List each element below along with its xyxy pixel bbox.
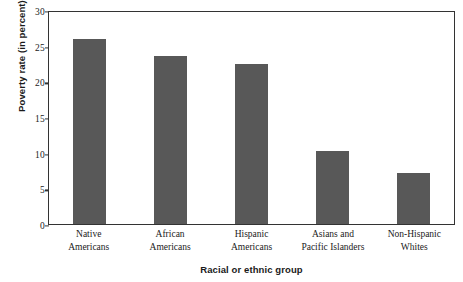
bar-series bbox=[49, 12, 454, 224]
bar-slot bbox=[211, 12, 292, 224]
x-axis-tick-label: AfricanAmericans bbox=[129, 228, 210, 253]
poverty-rate-bar-chart: Poverty rate (in percent) 051015202530 N… bbox=[0, 0, 463, 282]
x-axis-title: Racial or ethnic group bbox=[48, 264, 455, 275]
x-axis-tick-label-line: Americans bbox=[130, 241, 209, 254]
bar bbox=[397, 173, 430, 224]
x-axis-tick-label: Asians andPacific Islanders bbox=[292, 228, 373, 253]
x-axis-tick-label: HispanicAmericans bbox=[211, 228, 292, 253]
y-axis-tick-mark bbox=[45, 190, 50, 191]
x-axis-tick-label-line: Americans bbox=[212, 241, 291, 254]
y-axis-tick-mark bbox=[45, 83, 50, 84]
bar-slot bbox=[373, 12, 454, 224]
y-axis-tick-label: 25 bbox=[25, 43, 45, 53]
bar-slot bbox=[49, 12, 130, 224]
plot-area: 051015202530 bbox=[48, 11, 455, 225]
y-axis-tick-mark bbox=[45, 11, 50, 12]
x-axis-tick-label-line: Non-Hispanic bbox=[375, 228, 454, 241]
x-axis-tick-label-line: Whites bbox=[375, 241, 454, 254]
y-axis-tick-label: 20 bbox=[25, 78, 45, 88]
bar bbox=[316, 151, 349, 224]
x-axis-tick-label-line: Pacific Islanders bbox=[293, 241, 372, 254]
bar-slot bbox=[292, 12, 373, 224]
y-axis-tick-label: 30 bbox=[25, 7, 45, 17]
y-axis-tick-mark bbox=[45, 47, 50, 48]
y-axis-tick-label: 15 bbox=[25, 114, 45, 124]
x-axis-tick-label-line: African bbox=[130, 228, 209, 241]
plot-inner: 051015202530 bbox=[49, 12, 454, 224]
bar bbox=[235, 64, 268, 225]
y-axis-tick-label: 0 bbox=[25, 221, 45, 231]
x-axis-tick-label-line: Americans bbox=[49, 241, 128, 254]
x-axis-tick-label-line: Native bbox=[49, 228, 128, 241]
bar bbox=[154, 56, 187, 224]
y-axis-tick-mark bbox=[45, 118, 50, 119]
y-axis-tick-mark bbox=[45, 225, 50, 226]
y-axis-tick-mark bbox=[45, 154, 50, 155]
x-axis-tick-label-line: Hispanic bbox=[212, 228, 291, 241]
y-axis-tick-label: 10 bbox=[25, 150, 45, 160]
x-axis-tick-label-line: Asians and bbox=[293, 228, 372, 241]
bar bbox=[73, 39, 106, 224]
x-axis-tick-label: Non-HispanicWhites bbox=[374, 228, 455, 253]
y-axis-tick-label: 5 bbox=[25, 185, 45, 195]
bar-slot bbox=[130, 12, 211, 224]
x-axis-tick-labels: NativeAmericansAfricanAmericansHispanicA… bbox=[48, 228, 455, 253]
x-axis-tick-label: NativeAmericans bbox=[48, 228, 129, 253]
